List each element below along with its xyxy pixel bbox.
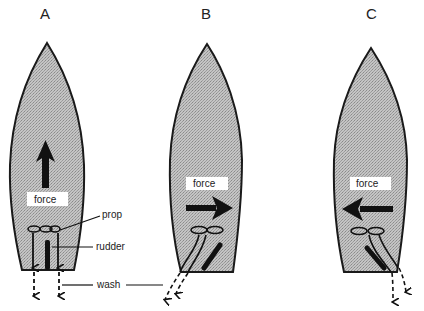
panel-label-c: C [366, 5, 377, 22]
wash-arrow-icon [165, 273, 180, 300]
panel-b: B force [165, 5, 242, 300]
callout-wash: wash [96, 279, 120, 290]
boat-steering-diagram: A force prop rudder wash [0, 0, 424, 311]
panel-label-b: B [201, 5, 211, 22]
force-label-c: force [356, 178, 379, 189]
force-label-a: force [34, 194, 57, 205]
wash-arrow-icon [392, 273, 393, 302]
rudder-icon [45, 240, 50, 270]
panel-c: C force [334, 5, 407, 302]
wash-arrow-icon [399, 268, 406, 292]
callout-prop: prop [102, 209, 122, 220]
callout-rudder: rudder [96, 241, 126, 252]
panel-a: A force [10, 5, 84, 296]
force-label-b: force [193, 178, 216, 189]
panel-label-a: A [40, 5, 50, 22]
